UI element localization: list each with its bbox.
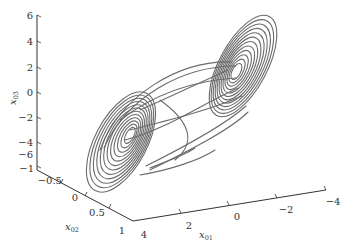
y-tick-neg0.5: −0.5 — [38, 175, 62, 186]
z-tick-2: 2 — [27, 62, 33, 73]
attractor-3d-plot: 6 4 2 0 −2 −4 −6 x03 −1 −0.5 0 0.5 1 x02… — [0, 0, 343, 245]
z-axis-label: x03 — [7, 91, 20, 105]
y-tick-0.5: 0.5 — [89, 207, 105, 218]
y-axis-label: x02 — [65, 221, 79, 234]
z-axis: 6 4 2 0 −2 −4 −6 x03 — [7, 10, 41, 170]
z-tick-neg6: −6 — [18, 149, 33, 160]
z-tick-6: 6 — [27, 10, 33, 21]
z-tick-4: 4 — [27, 36, 33, 47]
trajectory-series — [72, 5, 290, 202]
x-tick-neg2: −2 — [279, 204, 294, 215]
y-tick-1: 1 — [119, 225, 125, 236]
x-axis-label: x01 — [199, 229, 213, 242]
x-tick-0: 0 — [234, 211, 240, 222]
x-tick-neg4: −4 — [326, 196, 341, 207]
z-tick-neg4: −4 — [18, 137, 33, 148]
z-tick-neg2: −2 — [18, 112, 33, 123]
y-tick-neg1: −1 — [19, 163, 34, 174]
z-tick-0: 0 — [27, 87, 33, 98]
x-tick-4: 4 — [141, 229, 147, 240]
x-axis: 4 2 0 −2 −4 x01 — [133, 186, 340, 242]
y-tick-0: 0 — [72, 192, 78, 203]
x-tick-2: 2 — [186, 220, 192, 231]
